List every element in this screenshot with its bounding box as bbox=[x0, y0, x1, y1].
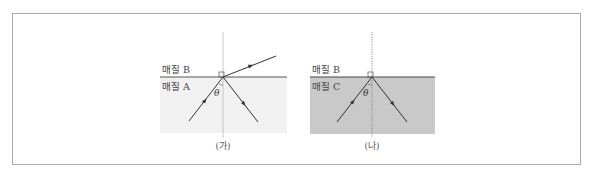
upper-medium-label: 매질 B bbox=[312, 64, 340, 75]
lower-medium-label: 매질 A bbox=[162, 81, 190, 92]
figure-ga: 매질 B 매질 A θ (가) bbox=[160, 32, 287, 151]
figure-caption: (나) bbox=[364, 141, 379, 151]
figure-na: 매질 B 매질 C θ (나) bbox=[310, 32, 435, 151]
upper-medium-label: 매질 B bbox=[162, 64, 190, 75]
angle-label: θ bbox=[363, 88, 369, 98]
angle-label: θ bbox=[214, 88, 220, 98]
lower-medium-label: 매질 C bbox=[312, 81, 340, 92]
diagram-canvas: 매질 B 매질 A θ (가) 매질 B 매질 C θ (나) bbox=[0, 0, 594, 173]
arrow-icon bbox=[248, 66, 251, 67]
figure-caption: (가) bbox=[215, 141, 230, 151]
